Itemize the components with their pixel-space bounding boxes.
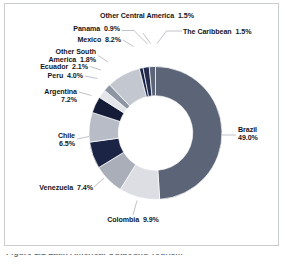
leader-line-argentina [79,92,92,96]
label-brazil-line2: 49.0% [238,134,283,142]
label-peru: Peru 4.0% [6,72,83,80]
label-chile-line2: 6.5% [6,140,75,148]
leader-line-colombia [133,201,137,216]
figure-caption-clipped: Figure 1.1 Latin America: Outbound Touri… [6,254,246,263]
label-argentina-line1: Argentina [6,88,77,96]
donut-slices [89,67,222,200]
label-argentina-line2: 7.2% [6,96,77,104]
label-chile-line1: Chile [6,132,75,140]
figure-caption-text: Figure 1.1 Latin America: Outbound Touri… [6,254,183,257]
leader-line-ecuador [90,67,101,71]
leader-line-venezuela [94,178,104,187]
label-caribbean: The Caribbean 1.5% [183,28,283,36]
label-venezuela: Venezuela 7.4% [6,184,93,192]
label-colombia: Colombia 9.9% [85,216,181,224]
pie-slice-brazil [156,67,223,200]
label-ecuador: Ecuador 2.1% [6,63,88,71]
label-other-central-america: Other Central America 1.5% [67,12,227,20]
leader-line-other-central-america [143,33,151,44]
leader-line-mexico [123,40,134,47]
label-panama: Panama 0.9% [20,25,120,33]
leader-line-other-south-america [98,56,108,63]
leader-line-caribbean [157,31,182,44]
figure-container: Other Central America 1.5% Panama 0.9% T… [0,0,287,263]
label-mexico: Mexico 8.2% [28,36,121,44]
leader-line-chile [77,137,89,140]
leader-line-peru [85,76,98,79]
label-brazil-line1: Brazil [238,126,283,134]
label-other-south-america-line1: Other South [8,48,96,56]
